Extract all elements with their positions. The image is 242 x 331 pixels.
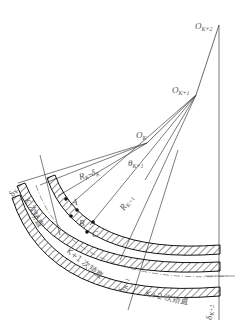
delta-k2-label: δK+2 [204,305,215,320]
center-line-k2-k1 [196,25,219,95]
straightening-diagram: A B C OK+2 OK+1 OK θK+1 RK-δK RK+1 δK δK… [0,0,242,331]
outer-band [17,183,220,272]
radius-rk1-label: RK+1 [117,193,136,214]
point-b-label: B [79,218,85,228]
center-ok-label: OK [136,130,148,141]
point-a-label: A [71,197,78,207]
theta-k1-label: θK+1 [128,158,143,169]
center-ok2-label: OK+2 [195,21,213,32]
center-ok1-label: OK+1 [172,85,190,96]
point-c-label: C [92,229,99,239]
